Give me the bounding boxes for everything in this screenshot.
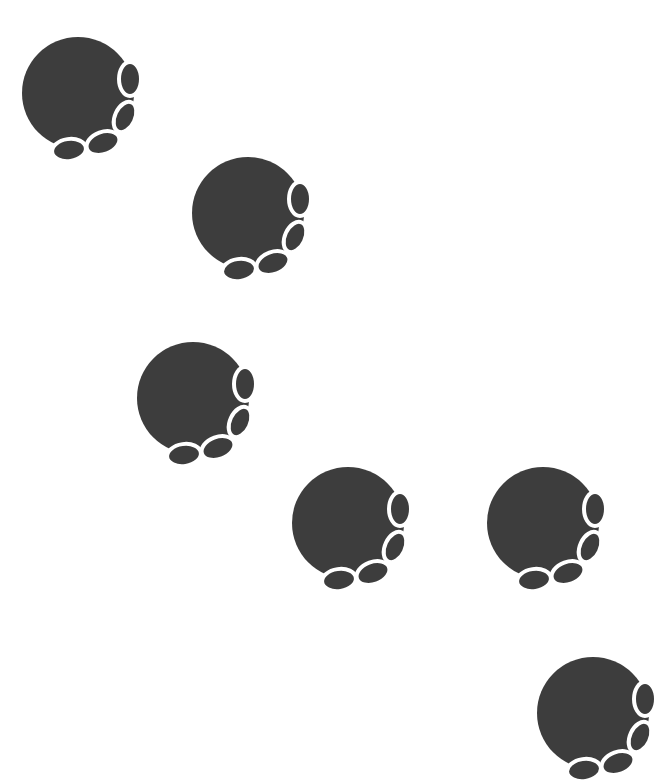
paw-print-icon <box>135 340 265 470</box>
paw-toe <box>389 492 411 526</box>
paw-print-icon <box>20 35 150 165</box>
paw-print-icon <box>485 465 615 595</box>
paw-toe <box>289 182 311 216</box>
paw-print-icon <box>290 465 420 595</box>
paw-toe <box>119 62 141 96</box>
paw-print-icon <box>535 655 658 784</box>
paw-print-icon <box>190 155 320 285</box>
paw-toe <box>584 492 606 526</box>
paw-toe <box>234 367 256 401</box>
paw-toe <box>634 682 656 716</box>
